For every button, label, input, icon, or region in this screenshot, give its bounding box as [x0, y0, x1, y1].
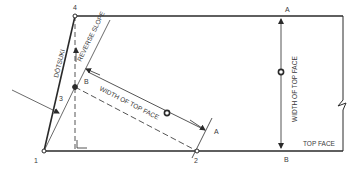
right-angle-mark — [77, 140, 87, 148]
label-b-diag: B — [84, 78, 89, 85]
point-1-marker — [42, 149, 46, 153]
label-a-diag: A — [214, 128, 219, 135]
label-a-top: A — [285, 6, 290, 13]
label-point-3: 3 — [59, 95, 63, 102]
label-top-face: TOP FACE — [303, 140, 336, 147]
label-b-bottom: B — [284, 156, 289, 163]
label-point-4: 4 — [73, 4, 77, 11]
center-mark-diag — [164, 110, 169, 115]
label-reverse-slope: REVERSE SLOPE — [76, 10, 106, 63]
point-2-marker — [195, 149, 199, 153]
dashed-line-3-to-2 — [75, 87, 197, 151]
point-4-marker — [73, 14, 77, 18]
point-3-marker — [73, 85, 78, 90]
label-width-top-face-diag: WIDTH OF TOP FACE — [99, 85, 161, 121]
label-point-1: 1 — [34, 157, 38, 164]
right-edge-break-line — [338, 16, 346, 151]
top-face-upper-line — [88, 72, 205, 130]
center-mark-vert — [278, 69, 283, 74]
label-width-top-face-vert: WIDTH OF TOP FACE — [291, 56, 298, 122]
label-point-2: 2 — [194, 157, 198, 164]
diag-dim-arrow-a — [190, 120, 205, 130]
dotsuki-line — [44, 16, 75, 151]
timber-layout-diagram: 4 1 2 3 B A A B TOP FACE DŌTSUKI REVERSE… — [0, 0, 364, 173]
leader-line-3 — [12, 90, 59, 113]
